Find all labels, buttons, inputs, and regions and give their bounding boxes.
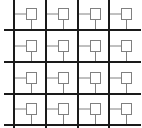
node	[47, 41, 69, 62]
node-box	[59, 104, 69, 115]
node	[15, 104, 37, 125]
node-box	[122, 41, 132, 52]
node-box	[59, 9, 69, 20]
node	[110, 73, 132, 94]
node-box	[27, 41, 37, 52]
node	[110, 9, 132, 30]
node	[47, 73, 69, 94]
node	[15, 9, 37, 30]
node-box	[27, 104, 37, 115]
node-box	[27, 9, 37, 20]
node-box	[91, 41, 101, 52]
nodes	[15, 9, 132, 125]
node	[15, 41, 37, 62]
node	[79, 104, 101, 125]
node-box	[122, 73, 132, 84]
node	[79, 9, 101, 30]
node-box	[122, 9, 132, 20]
node	[110, 104, 132, 125]
node	[79, 73, 101, 94]
node	[47, 9, 69, 30]
grid-network-diagram	[0, 0, 142, 128]
node	[47, 104, 69, 125]
node-box	[59, 41, 69, 52]
node-box	[122, 104, 132, 115]
node-box	[59, 73, 69, 84]
node-box	[91, 9, 101, 20]
node-box	[91, 73, 101, 84]
node-box	[91, 104, 101, 115]
node-box	[27, 73, 37, 84]
node	[79, 41, 101, 62]
node	[110, 41, 132, 62]
node	[15, 73, 37, 94]
